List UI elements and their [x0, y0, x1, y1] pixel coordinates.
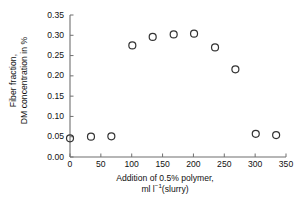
x-axis-label: Addition of 0.5% polymer, ml l−1(slurry) [40, 173, 290, 195]
data-point [212, 44, 219, 51]
data-point [170, 31, 177, 38]
data-point [191, 30, 198, 37]
x-axis-label-suffix: (slurry) [162, 184, 189, 194]
x-axis-tick-label: 200 [178, 160, 208, 169]
x-axis-tick-label: 100 [117, 160, 147, 169]
x-axis-tick-label: 250 [209, 160, 239, 169]
x-axis-label-line1: Addition of 0.5% polymer, [40, 173, 290, 184]
x-axis-tick-labels: 050100150200250300350 [0, 160, 300, 172]
x-axis-tick-label: 350 [271, 160, 300, 169]
data-point [149, 33, 156, 40]
x-axis-label-line2: ml l−1(slurry) [40, 184, 290, 195]
axis-lines [70, 15, 286, 157]
x-axis-tick-label: 300 [240, 160, 270, 169]
chart-figure: Fiber fraction, DM concentration in % 0.… [0, 0, 300, 211]
tick-marks [70, 15, 286, 157]
data-point [87, 133, 94, 140]
data-point [129, 42, 136, 49]
x-axis-label-exponent: −1 [155, 182, 162, 189]
data-point [232, 66, 239, 73]
data-point [108, 133, 115, 140]
x-axis-tick-label: 0 [55, 160, 85, 169]
x-axis-label-unit: ml l [141, 184, 154, 194]
data-point [273, 132, 280, 139]
data-point-markers [67, 30, 280, 142]
x-axis-tick-label: 150 [148, 160, 178, 169]
data-point [252, 130, 259, 137]
x-axis-tick-label: 50 [86, 160, 116, 169]
